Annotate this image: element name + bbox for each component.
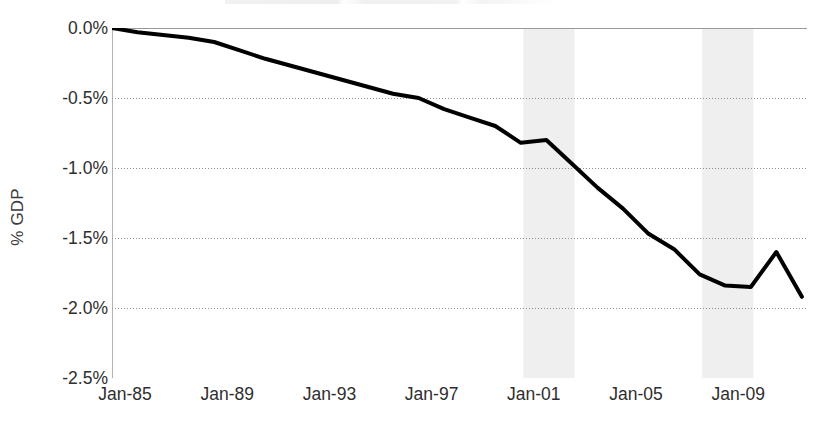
x-axis-tick-labels: Jan-85Jan-89Jan-93Jan-97Jan-01Jan-05Jan-…	[0, 384, 823, 424]
cropped-title-remnant	[225, 0, 555, 4]
series-line--gdp	[112, 28, 802, 297]
x-tick-label: Jan-01	[507, 384, 561, 405]
axis-lines	[112, 28, 113, 378]
x-tick-label: Jan-93	[303, 384, 357, 405]
recession-bands	[523, 28, 753, 378]
x-tick-label: Jan-89	[200, 384, 254, 405]
y-axis-tick-labels: 0.0%-0.5%-1.0%-1.5%-2.0%-2.5%	[18, 0, 108, 433]
y-tick-label: -2.0%	[22, 298, 108, 319]
data-series	[112, 28, 802, 297]
y-tick-label: 0.0%	[22, 18, 108, 39]
y-tick-label: -1.0%	[22, 158, 108, 179]
recession-band-2008	[702, 28, 753, 378]
plot-area	[112, 28, 807, 378]
recession-band-2001	[523, 28, 574, 378]
x-tick-label: Jan-09	[711, 384, 765, 405]
y-tick-label: -0.5%	[22, 88, 108, 109]
x-tick-label: Jan-97	[405, 384, 459, 405]
x-tick-label: Jan-85	[98, 384, 152, 405]
chart-figure: % GDP 0.0%-0.5%-1.0%-1.5%-2.0%-2.5% Jan-…	[0, 0, 823, 433]
y-tick-label: -1.5%	[22, 228, 108, 249]
x-tick-label: Jan-05	[609, 384, 663, 405]
chart-svg	[112, 28, 807, 378]
